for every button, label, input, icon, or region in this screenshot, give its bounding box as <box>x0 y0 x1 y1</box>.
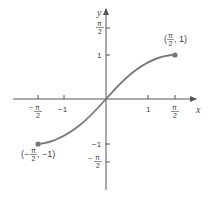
y-tick-label-pi-over-2: π 2 <box>96 20 104 35</box>
y-axis-label: y <box>96 7 102 18</box>
y-tick-label-neg-pi-over-2: − π 2 <box>88 154 102 169</box>
svg-text:2: 2 <box>96 162 100 169</box>
svg-text:, 1): , 1) <box>174 34 187 44</box>
svg-text:π: π <box>31 147 36 154</box>
sine-graph: x y − π 2 −1 1 π 2 π 2 1 −1 − π 2 ( π 2 … <box>0 0 212 199</box>
svg-text:2: 2 <box>32 155 36 162</box>
x-tick-label-neg-pi-over-2: − π 2 <box>29 104 42 119</box>
svg-text:2: 2 <box>36 112 40 119</box>
svg-text:(: ( <box>164 34 167 44</box>
y-tick-label-1: 1 <box>97 51 102 60</box>
y-tick-label-neg-1: −1 <box>92 140 102 149</box>
svg-text:−: − <box>29 104 33 111</box>
x-tick-label-neg-1: −1 <box>58 105 68 114</box>
svg-text:(−: (− <box>21 149 29 159</box>
svg-text:π: π <box>172 104 177 111</box>
x-tick-label-1: 1 <box>146 105 151 114</box>
annotation-left-point: (− π 2 , −1) <box>21 147 55 162</box>
svg-text:, −1): , −1) <box>37 149 55 159</box>
svg-text:π: π <box>95 154 100 161</box>
endpoint-left <box>35 141 40 146</box>
svg-text:π: π <box>168 32 173 39</box>
svg-text:−: − <box>88 155 92 162</box>
svg-text:2: 2 <box>98 28 102 35</box>
x-tick-label-pi-over-2: π 2 <box>171 104 179 119</box>
svg-text:π: π <box>97 20 102 27</box>
x-axis-label: x <box>195 104 201 115</box>
svg-text:2: 2 <box>173 112 177 119</box>
endpoint-right <box>172 52 177 57</box>
svg-text:π: π <box>35 104 40 111</box>
annotation-right-point: ( π 2 , 1) <box>164 32 187 47</box>
svg-text:2: 2 <box>169 40 173 47</box>
